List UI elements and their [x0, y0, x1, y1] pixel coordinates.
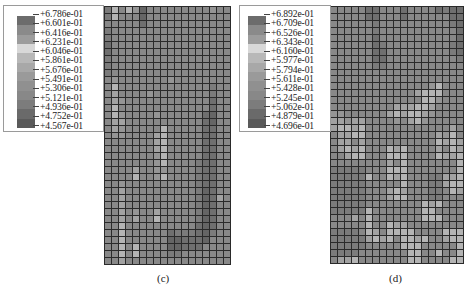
mesh-cell	[422, 111, 428, 117]
legend-color-swatch	[248, 53, 266, 62]
mesh-cell	[380, 70, 386, 76]
mesh-cell	[415, 215, 421, 221]
mesh-cell	[175, 49, 181, 55]
mesh-cell	[182, 70, 188, 76]
mesh-cell	[154, 91, 160, 97]
mesh-cell	[119, 56, 125, 62]
mesh-cell	[457, 160, 463, 166]
mesh-cell	[352, 63, 358, 69]
mesh-cell	[161, 244, 167, 250]
mesh-cell	[119, 237, 125, 243]
mesh-cell	[443, 146, 449, 152]
mesh-cell	[359, 83, 365, 89]
mesh-cell	[217, 195, 223, 201]
mesh-cell	[147, 223, 153, 229]
mesh-cell	[119, 112, 125, 118]
mesh-cell	[366, 118, 372, 124]
mesh-cell	[352, 118, 358, 124]
mesh-cell	[345, 243, 351, 249]
mesh-cell	[126, 209, 132, 215]
mesh-cell	[161, 230, 167, 236]
mesh-cell	[133, 21, 139, 27]
mesh-cell	[352, 160, 358, 166]
mesh-cell	[140, 195, 146, 201]
mesh-cell	[380, 160, 386, 166]
mesh-cell	[345, 14, 351, 20]
mesh-cell	[443, 42, 449, 48]
mesh-cell	[112, 216, 118, 222]
mesh-cell	[331, 104, 337, 110]
mesh-cell	[126, 63, 132, 69]
mesh-cell	[210, 98, 216, 104]
mesh-cell	[119, 258, 125, 264]
mesh-cell	[408, 139, 414, 145]
mesh-cell	[210, 244, 216, 250]
mesh-cell	[338, 28, 344, 34]
mesh-cell	[345, 35, 351, 41]
mesh-cell	[352, 215, 358, 221]
mesh-cell	[196, 112, 202, 118]
legend-value-label: +4.567e-01	[40, 121, 83, 130]
mesh-cell	[394, 7, 400, 13]
mesh-cell	[203, 77, 209, 83]
mesh-cell	[352, 201, 358, 207]
mesh-cell	[112, 237, 118, 243]
mesh-cell	[436, 132, 442, 138]
mesh-cell	[331, 14, 337, 20]
mesh-cell	[140, 237, 146, 243]
legend-color-swatch	[17, 25, 35, 34]
mesh-cell	[175, 146, 181, 152]
mesh-cell	[394, 28, 400, 34]
mesh-cell	[154, 49, 160, 55]
mesh-cell	[331, 83, 337, 89]
mesh-cell	[331, 174, 337, 180]
mesh-cell	[422, 222, 428, 228]
mesh-cell	[401, 56, 407, 62]
mesh-cell	[119, 167, 125, 173]
legend-color-swatch	[17, 91, 35, 100]
mesh-cell	[126, 139, 132, 145]
mesh-cell	[436, 83, 442, 89]
mesh-cell	[140, 223, 146, 229]
mesh-cell	[133, 174, 139, 180]
mesh-cell	[224, 258, 230, 264]
mesh-cell	[359, 146, 365, 152]
mesh-cell	[168, 195, 174, 201]
mesh-cell	[133, 223, 139, 229]
mesh-cell	[457, 21, 463, 27]
mesh-cell	[168, 112, 174, 118]
mesh-cell	[373, 70, 379, 76]
mesh-cell	[352, 132, 358, 138]
mesh-cell	[380, 56, 386, 62]
mesh-cell	[401, 146, 407, 152]
mesh-cell	[126, 112, 132, 118]
mesh-cell	[436, 70, 442, 76]
mesh-cell	[210, 35, 216, 41]
mesh-cell	[147, 216, 153, 222]
mesh-cell	[119, 70, 125, 76]
mesh-cell	[217, 91, 223, 97]
mesh-cell	[345, 201, 351, 207]
mesh-cell	[373, 14, 379, 20]
mesh-cell	[189, 70, 195, 76]
mesh-cell	[387, 174, 393, 180]
mesh-cell	[217, 244, 223, 250]
mesh-cell	[422, 56, 428, 62]
mesh-cell	[352, 243, 358, 249]
mesh-cell	[429, 174, 435, 180]
mesh-cell	[443, 28, 449, 34]
mesh-cell	[331, 63, 337, 69]
mesh-cell	[119, 14, 125, 20]
mesh-cell	[147, 98, 153, 104]
mesh-cell	[217, 119, 223, 125]
mesh-cell	[126, 98, 132, 104]
mesh-cell	[422, 236, 428, 242]
mesh-cell	[175, 174, 181, 180]
mesh-cell	[443, 222, 449, 228]
mesh-cell	[338, 257, 344, 263]
mesh-cell	[429, 181, 435, 187]
mesh-cell	[119, 181, 125, 187]
mesh-cell	[359, 104, 365, 110]
mesh-cell	[345, 104, 351, 110]
mesh-cell	[387, 132, 393, 138]
